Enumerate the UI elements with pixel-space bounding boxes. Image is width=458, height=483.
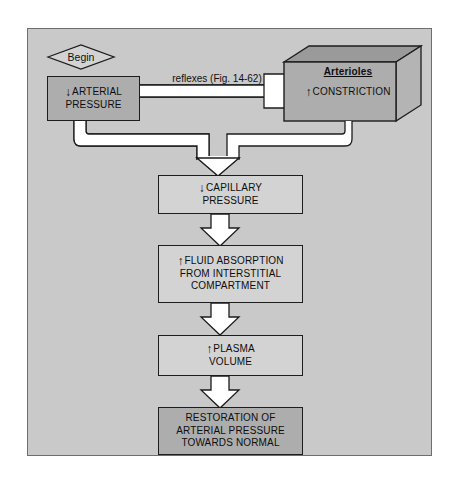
node-arterial-pressure[interactable]: ↓ARTERIAL PRESSURE xyxy=(47,76,140,121)
capillary-pressure-line1: ↓CAPILLARY xyxy=(199,182,262,195)
down-arrow-icon: ↓ xyxy=(199,181,205,195)
arterial-pressure-line1: ↓ARTERIAL xyxy=(65,86,122,99)
capillary-pressure-text1: CAPILLARY xyxy=(206,182,262,193)
begin-label: Begin xyxy=(48,47,114,67)
arrow-plasma-to-restoration xyxy=(201,376,239,408)
plasma-volume-line1: ↑PLASMA xyxy=(206,343,255,356)
capillary-pressure-line2: PRESSURE xyxy=(202,195,258,208)
reflexes-figure-reference: (Fig. 14-62) xyxy=(210,73,262,84)
fluid-absorption-line2: FROM INTERSTITIAL xyxy=(180,268,281,281)
fluid-absorption-line3: COMPARTMENT xyxy=(191,280,270,293)
arterioles-constriction-line: ↑CONSTRICTION xyxy=(289,86,407,97)
node-plasma-volume[interactable]: ↑PLASMA VOLUME xyxy=(158,335,303,376)
reflexes-edge-label: reflexes (Fig. 14-62) xyxy=(163,73,271,86)
fluid-absorption-line1: ↑FLUID ABSORPTION xyxy=(177,255,283,268)
fluid-absorption-text1: FLUID ABSORPTION xyxy=(185,255,284,266)
arterioles-constriction-text: CONSTRICTION xyxy=(313,86,391,97)
node-capillary-pressure[interactable]: ↓CAPILLARY PRESSURE xyxy=(158,175,303,214)
arrow-capillary-to-fluid xyxy=(201,214,239,246)
figure-canvas: Begin reflexes (Fig. 14-62) ↓ARTERIAL PR… xyxy=(0,0,458,483)
plasma-volume-line2: VOLUME xyxy=(209,356,252,369)
restoration-line2: ARTERIAL PRESSURE xyxy=(176,425,285,438)
restoration-line3: TOWARDS NORMAL xyxy=(181,437,279,450)
arterioles-title: Arterioles xyxy=(289,66,407,77)
arterial-pressure-line2: PRESSURE xyxy=(65,99,121,112)
down-arrow-icon: ↓ xyxy=(65,85,71,99)
up-arrow-icon: ↑ xyxy=(206,342,212,356)
node-fluid-absorption[interactable]: ↑FLUID ABSORPTION FROM INTERSTITIAL COMP… xyxy=(158,245,303,303)
arrow-fluid-to-plasma xyxy=(201,303,239,335)
node-restoration[interactable]: RESTORATION OF ARTERIAL PRESSURE TOWARDS… xyxy=(158,407,303,455)
restoration-line1: RESTORATION OF xyxy=(185,412,275,425)
up-arrow-icon: ↑ xyxy=(177,254,183,268)
up-arrow-icon: ↑ xyxy=(305,85,311,99)
arterial-pressure-text1: ARTERIAL xyxy=(72,86,122,97)
node-arterioles[interactable]: Arterioles ↑CONSTRICTION xyxy=(289,66,407,97)
reflexes-label-line1: reflexes xyxy=(172,73,207,84)
plasma-volume-text1: PLASMA xyxy=(213,343,254,354)
